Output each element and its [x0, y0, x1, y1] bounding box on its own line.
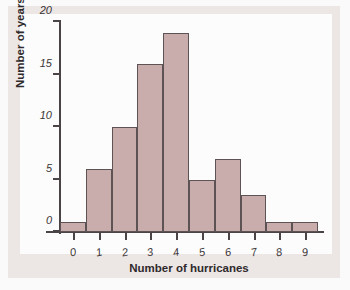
bar [189, 180, 215, 233]
x-axis-label: Number of hurricanes [60, 262, 318, 274]
x-tick-mark [73, 232, 75, 240]
y-tick-label: 0 [26, 214, 52, 226]
bar [112, 127, 138, 232]
x-tick-mark [150, 232, 152, 240]
y-tick-label: 10 [26, 109, 52, 121]
y-tick-label: 5 [26, 162, 52, 174]
y-tick-label: 15 [26, 57, 52, 69]
bar [137, 64, 163, 232]
x-tick-mark [228, 232, 230, 240]
bar [266, 222, 292, 233]
y-tick-mark [53, 178, 60, 180]
x-tick-mark [279, 232, 281, 240]
y-axis-label: Number of years [14, 0, 26, 88]
plot-area: 05101520 0123456789 [60, 22, 318, 232]
x-tick-mark [305, 232, 307, 240]
y-tick-label: 20 [26, 4, 52, 16]
x-tick-mark [254, 232, 256, 240]
x-tick-mark [176, 232, 178, 240]
y-tick-mark [53, 73, 60, 75]
y-tick-mark [53, 125, 60, 127]
bar [163, 33, 189, 233]
bar [241, 195, 267, 232]
bar [215, 159, 241, 233]
bar [86, 169, 112, 232]
bar [60, 222, 86, 233]
y-tick-mark [53, 230, 60, 232]
x-tick-mark [125, 232, 127, 240]
x-tick-mark [202, 232, 204, 240]
histogram-figure: 05101520 0123456789 Number of hurricanes… [0, 0, 350, 290]
y-axis-line [59, 20, 61, 234]
bar [292, 222, 318, 233]
y-tick-mark [53, 20, 60, 22]
x-tick-mark [99, 232, 101, 240]
